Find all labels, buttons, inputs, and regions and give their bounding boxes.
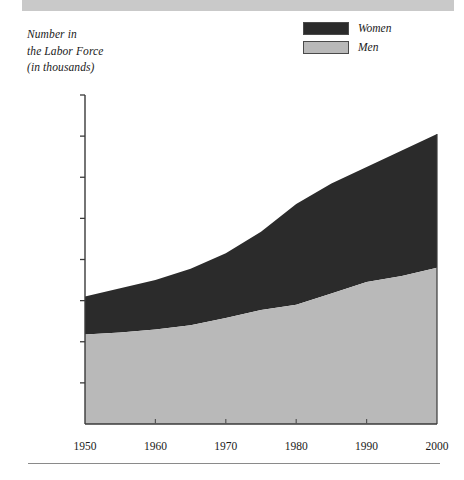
bottom-divider — [28, 463, 440, 464]
x-tick-label: 1990 — [337, 441, 397, 453]
x-tick-label: 1970 — [196, 441, 256, 453]
x-tick-label: 1960 — [125, 441, 185, 453]
chart-page: Number in the Labor Force (in thousands)… — [0, 0, 464, 480]
x-axis-tick-labels: 195019601970198019902000 — [0, 0, 464, 480]
x-tick-label: 2000 — [407, 441, 464, 453]
x-tick-label: 1950 — [55, 441, 115, 453]
x-tick-label: 1980 — [266, 441, 326, 453]
